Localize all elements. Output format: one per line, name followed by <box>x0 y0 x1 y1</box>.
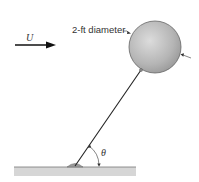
balloon-sphere <box>129 21 181 73</box>
diameter-label: 2-ft diameter <box>72 25 125 35</box>
angle-arc <box>88 144 101 167</box>
attachment-point <box>139 68 142 71</box>
flow-velocity-label: U <box>26 33 33 43</box>
tether-line <box>75 70 141 166</box>
flow-arrow-icon <box>15 42 56 49</box>
diameter-leader-arrow-right-icon <box>181 53 192 58</box>
ground <box>14 167 136 176</box>
angle-theta-label: θ <box>101 148 106 158</box>
